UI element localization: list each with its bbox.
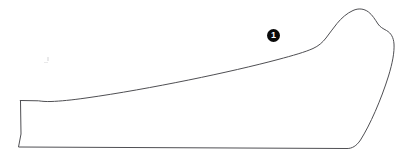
scan-speck-artifact xyxy=(47,57,49,61)
callout-marker-1[interactable]: 1 xyxy=(267,29,280,42)
outline-drawing xyxy=(0,0,417,163)
figure-canvas: 1 xyxy=(0,0,417,163)
shape-outline-path xyxy=(19,9,395,149)
scan-speck-artifact-2 xyxy=(44,62,48,63)
